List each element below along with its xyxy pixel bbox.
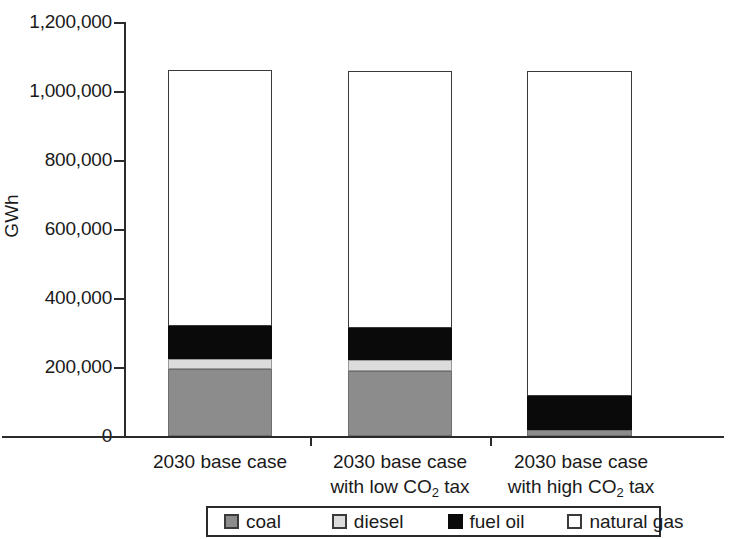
y-tick-label-1000000: 1,000,000: [4, 80, 112, 102]
y-tick-label-400000: 400,000: [4, 287, 112, 309]
bar-segment-coal-1: [348, 371, 452, 436]
x-tick-1: [310, 437, 312, 446]
x-category-label-1: 2030 base case with low CO2 tax: [300, 449, 500, 501]
bar-segment-natural-gas-2: [527, 71, 632, 396]
bar-segment-fuel-oil-2: [527, 396, 632, 430]
legend-swatch-natural-gas-icon: [567, 514, 582, 529]
x-category-label-2: 2030 base case with high CO2 tax: [478, 449, 684, 501]
legend-label-natural-gas: natural gas: [589, 512, 683, 531]
stacked-bar-chart: GWh 1,200,000 1,000,000 800,000 600,000 …: [0, 0, 729, 539]
y-tick-400000: [114, 298, 125, 300]
bar-segment-natural-gas-1: [348, 71, 452, 328]
x-category-label-2-line2: with high CO2 tax: [478, 474, 684, 501]
bar-2030-base-case-low-co2-tax: [348, 71, 452, 436]
legend-item-diesel: diesel: [332, 512, 404, 531]
x-tick-2: [490, 437, 492, 446]
bar-2030-base-case: [168, 70, 272, 436]
bar-segment-natural-gas-0: [168, 70, 272, 326]
legend-item-natural-gas: natural gas: [567, 512, 683, 531]
legend-item-coal: coal: [224, 512, 281, 531]
x-category-label-0: 2030 base case: [120, 449, 320, 474]
y-tick-label-1200000: 1,200,000: [4, 11, 112, 33]
legend-swatch-fuel-oil-icon: [448, 514, 463, 529]
legend: coal diesel fuel oil natural gas: [206, 506, 661, 537]
y-tick-600000: [114, 229, 125, 231]
legend-item-fuel-oil: fuel oil: [448, 512, 525, 531]
y-tick-1200000: [114, 22, 125, 24]
bar-segment-diesel-1: [348, 360, 452, 371]
bar-segment-fuel-oil-1: [348, 328, 452, 360]
bar-segment-fuel-oil-0: [168, 326, 272, 359]
legend-label-coal: coal: [246, 512, 281, 531]
legend-swatch-diesel-icon: [332, 514, 347, 529]
x-axis-line: [2, 436, 724, 438]
y-tick-label-600000: 600,000: [4, 218, 112, 240]
legend-label-fuel-oil: fuel oil: [470, 512, 525, 531]
legend-label-diesel: diesel: [354, 512, 404, 531]
x-category-label-1-line1: 2030 base case: [333, 451, 467, 472]
y-tick-200000: [114, 367, 125, 369]
bar-segment-diesel-0: [168, 359, 272, 369]
x-category-label-2-line1: 2030 base case: [514, 451, 648, 472]
y-tick-800000: [114, 160, 125, 162]
x-category-label-0-line1: 2030 base case: [153, 451, 287, 472]
y-tick-label-200000: 200,000: [4, 356, 112, 378]
legend-swatch-coal-icon: [224, 514, 239, 529]
bar-2030-base-case-high-co2-tax: [527, 71, 632, 436]
bar-segment-coal-0: [168, 369, 272, 436]
x-category-label-1-line2: with low CO2 tax: [300, 474, 500, 501]
y-tick-1000000: [114, 91, 125, 93]
y-tick-label-800000: 800,000: [4, 149, 112, 171]
